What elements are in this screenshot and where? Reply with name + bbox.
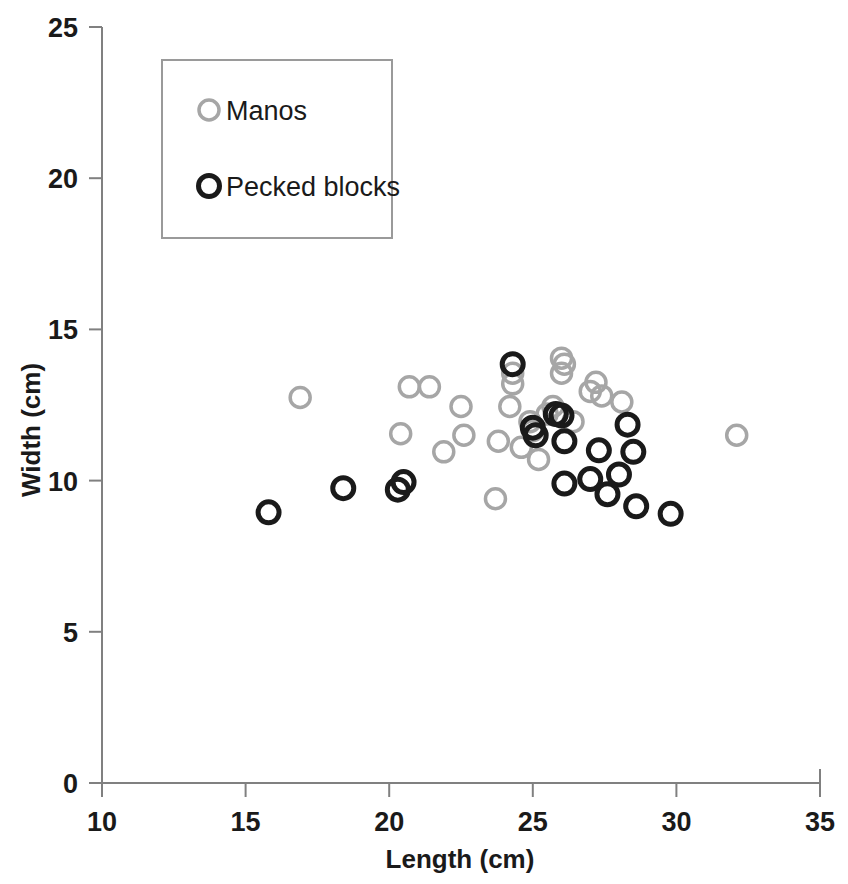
y-tick-label: 5 <box>63 618 78 648</box>
x-axis-tick-labels: 101520253035 <box>87 807 835 837</box>
x-tick-label: 30 <box>661 807 691 837</box>
y-axis-title: Width (cm) <box>16 363 46 497</box>
data-point-marker <box>617 414 638 435</box>
y-tick-label: 10 <box>48 467 78 497</box>
y-tick-label: 15 <box>48 315 78 345</box>
x-tick-label: 20 <box>374 807 404 837</box>
data-point-marker <box>612 392 632 412</box>
data-point-marker <box>434 442 454 462</box>
data-point-marker <box>258 502 279 523</box>
data-point-marker <box>290 387 310 407</box>
y-tick-label: 25 <box>48 13 78 43</box>
legend-label-manos: Manos <box>226 96 307 126</box>
y-tick-label: 20 <box>48 164 78 194</box>
data-point-marker <box>485 489 505 509</box>
x-axis-ticks <box>102 783 820 797</box>
data-point-marker <box>399 377 419 397</box>
data-point-marker <box>529 449 549 469</box>
data-point-marker <box>727 425 747 445</box>
data-point-marker <box>623 441 644 462</box>
data-point-marker <box>333 478 354 499</box>
x-axis-title: Length (cm) <box>386 844 535 874</box>
y-tick-label: 0 <box>63 769 78 799</box>
x-tick-label: 15 <box>231 807 261 837</box>
data-point-marker <box>488 431 508 451</box>
series-pecked-blocks-points <box>258 354 681 525</box>
scatter-plot-canvas: 0510152025 101520253035 Width (cm) Lengt… <box>0 0 848 884</box>
data-point-marker <box>554 431 575 452</box>
data-point-marker <box>660 503 681 524</box>
data-point-marker <box>391 424 411 444</box>
data-point-marker <box>454 425 474 445</box>
x-tick-label: 10 <box>87 807 117 837</box>
data-point-marker <box>626 496 647 517</box>
legend-label-pecked-blocks: Pecked blocks <box>226 172 400 202</box>
scatter-chart-figure: 0510152025 101520253035 Width (cm) Lengt… <box>0 0 848 884</box>
legend-box <box>162 60 392 238</box>
x-tick-label: 25 <box>518 807 548 837</box>
data-point-marker <box>608 464 629 485</box>
data-point-marker <box>451 397 471 417</box>
x-tick-label: 35 <box>805 807 835 837</box>
data-point-marker <box>554 473 575 494</box>
data-point-marker <box>419 377 439 397</box>
y-axis-ticks <box>89 27 102 783</box>
data-point-marker <box>500 397 520 417</box>
legend: Manos Pecked blocks <box>162 60 400 238</box>
data-point-marker <box>588 440 609 461</box>
y-axis-tick-labels: 0510152025 <box>48 13 78 799</box>
